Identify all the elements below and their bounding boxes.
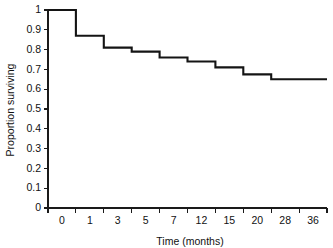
x-tick-label: 3 [115,214,121,226]
x-tick-label: 0 [59,214,65,226]
y-axis-tick-labels: 00.10.20.30.40.50.60.70.80.91 [26,3,41,213]
y-tick-label: 1 [35,3,41,15]
chart-background [0,0,333,248]
x-tick-label: 7 [171,214,177,226]
y-tick-label: 0.7 [26,63,41,75]
x-tick-label: 5 [143,214,149,226]
x-tick-label: 20 [251,214,263,226]
survival-chart: 00.10.20.30.40.50.60.70.80.91 0135712152… [0,0,333,248]
y-tick-label: 0.4 [26,122,41,134]
x-tick-label: 28 [279,214,291,226]
x-axis-title: Time (months) [156,235,223,247]
y-tick-label: 0.1 [26,181,41,193]
y-tick-label: 0.5 [26,102,41,114]
y-axis-title: Proportion surviving [4,63,16,156]
x-tick-label: 36 [307,214,319,226]
y-tick-label: 0.9 [26,23,41,35]
y-tick-label: 0.3 [26,142,41,154]
x-tick-label: 15 [224,214,236,226]
x-tick-label: 1 [87,214,93,226]
y-tick-label: 0.2 [26,162,41,174]
x-tick-label: 12 [196,214,208,226]
kaplan-meier-plot: 00.10.20.30.40.50.60.70.80.91 0135712152… [0,0,333,248]
y-tick-label: 0.8 [26,43,41,55]
y-tick-label: 0 [35,201,41,213]
y-tick-label: 0.6 [26,82,41,94]
